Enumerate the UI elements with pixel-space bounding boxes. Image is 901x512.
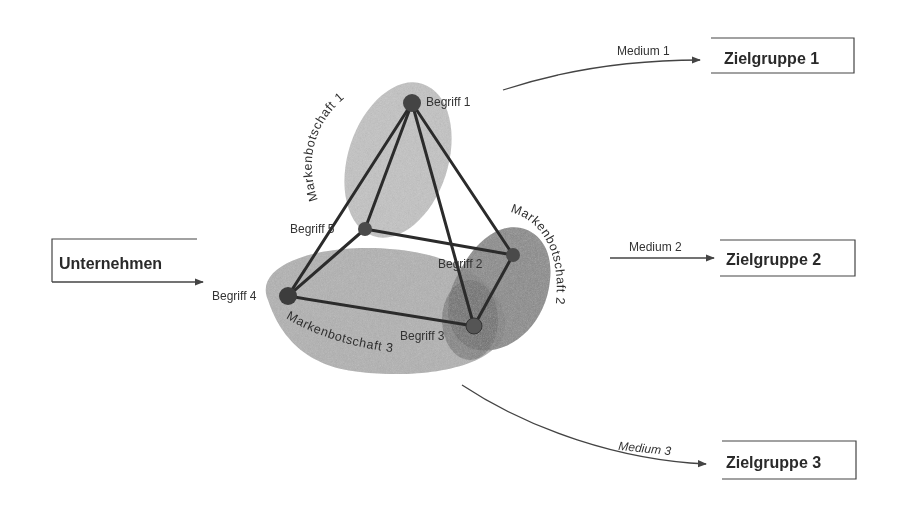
- zielgruppe-3-box[interactable]: Zielgruppe 3: [722, 441, 856, 479]
- zielgruppe-3-label: Zielgruppe 3: [726, 454, 821, 471]
- medium-2-label: Medium 2: [629, 240, 682, 254]
- zielgruppe-2-box[interactable]: Zielgruppe 2: [720, 240, 855, 276]
- begriff-1-node[interactable]: [403, 94, 421, 112]
- begriff-5-label: Begriff 5: [290, 222, 335, 236]
- begriff-2-node[interactable]: [506, 248, 520, 262]
- flow-medium-2: Medium 2: [610, 240, 714, 258]
- medium-1-label: Medium 1: [617, 44, 670, 58]
- markenbotschaft-1-label: Markenbotschaft 1: [301, 89, 347, 203]
- medium-1-arrow: [503, 60, 700, 90]
- zielgruppe-1-box[interactable]: Zielgruppe 1: [711, 38, 854, 73]
- zielgruppe-1-label: Zielgruppe 1: [724, 50, 819, 67]
- begriff-2-label: Begriff 2: [438, 257, 483, 271]
- begriff-4-label: Begriff 4: [212, 289, 257, 303]
- brand-message-diagram: Begriff 1 Begriff 2 Begriff 3 Begriff 4 …: [0, 0, 901, 512]
- flow-medium-3: Medium 3: [462, 385, 706, 464]
- begriff-3-label: Begriff 3: [400, 329, 445, 343]
- begriff-5-node[interactable]: [358, 222, 372, 236]
- medium-3-label: Medium 3: [618, 439, 672, 458]
- unternehmen-box[interactable]: Unternehmen: [52, 239, 203, 282]
- begriff-3-node[interactable]: [466, 318, 482, 334]
- flow-medium-1: Medium 1: [503, 44, 700, 90]
- begriff-4-node[interactable]: [279, 287, 297, 305]
- unternehmen-label: Unternehmen: [59, 255, 162, 272]
- zielgruppe-2-label: Zielgruppe 2: [726, 251, 821, 268]
- begriff-1-label: Begriff 1: [426, 95, 471, 109]
